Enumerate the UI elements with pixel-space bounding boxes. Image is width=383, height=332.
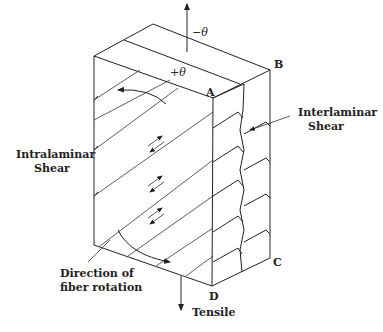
rotation-label-line1: Direction of [60, 267, 135, 280]
plus-theta-label: +θ [170, 66, 186, 79]
front-face [94, 56, 213, 286]
corner-b-label: B [274, 58, 283, 71]
rotation-leader [88, 240, 110, 262]
interlaminar-label-line2: Shear [308, 120, 344, 133]
shear-arrows-icon [148, 136, 164, 224]
minus-theta-label: −θ [192, 26, 208, 39]
side-face [212, 70, 270, 286]
tensile-label: Tensile [192, 306, 235, 319]
intralaminar-label-line1: Intralaminar [16, 148, 95, 161]
corner-d-label: D [209, 290, 219, 303]
corner-a-label: A [205, 86, 215, 99]
interlaminar-label-line1: Interlaminar [298, 106, 377, 119]
rotation-label-line2: fiber rotation [60, 281, 142, 294]
laminate-shear-diagram: −θ +θ A B C D Interlaminar Shear Intrala… [0, 0, 383, 332]
intralaminar-label-line2: Shear [34, 162, 70, 175]
rotation-arrow-bottom-icon [118, 230, 170, 262]
corner-c-label: C [273, 256, 282, 269]
